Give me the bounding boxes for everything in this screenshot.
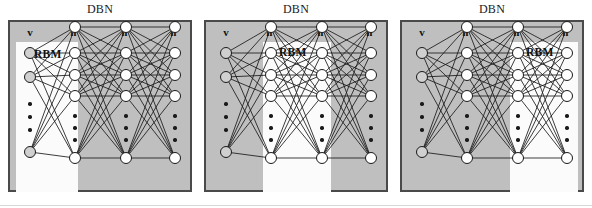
unit-node-h1 <box>69 21 81 33</box>
dbn-panel: DBNvh1h2h3RBM <box>400 20 584 192</box>
unit-node-h2 <box>316 21 328 33</box>
rbm-label: RBM <box>279 46 306 58</box>
unit-node-h1 <box>461 69 473 81</box>
dbn-figure: DBNvh1h2h3RBMDBNvh1h2h3RBMDBNvh1h2h3RBM <box>0 0 592 208</box>
ellipsis-dot <box>173 114 176 117</box>
layer-label-base: v <box>223 26 229 38</box>
ellipsis-dot <box>224 115 227 118</box>
ellipsis-dot <box>516 126 519 129</box>
unit-node-h3 <box>169 21 181 33</box>
unit-node-h3 <box>561 21 573 33</box>
unit-node-h1 <box>265 47 277 59</box>
ellipsis-dot <box>420 115 423 118</box>
panel-background: vh1h2h3RBM <box>8 20 192 192</box>
unit-node-v <box>416 146 428 158</box>
unit-node-v <box>24 146 36 158</box>
ellipsis-dot <box>565 114 568 117</box>
panel-title: DBN <box>8 2 192 16</box>
dbn-panel: DBNvh1h2h3RBM <box>8 20 192 192</box>
unit-node-h1 <box>265 90 277 102</box>
unit-node-h1 <box>69 47 81 59</box>
unit-node-h3 <box>561 69 573 81</box>
ellipsis-dot <box>320 138 323 141</box>
unit-node-v <box>220 47 232 59</box>
unit-node-v <box>24 71 36 83</box>
unit-node-h2 <box>316 152 328 164</box>
panel-background: vh1h2h3RBM <box>204 20 388 192</box>
ellipsis-dot <box>73 126 76 129</box>
layer-label-base: v <box>419 26 425 38</box>
layer-label-v: v <box>27 26 33 38</box>
edge <box>226 96 271 152</box>
ellipsis-dot <box>173 138 176 141</box>
ellipsis-dot <box>73 138 76 141</box>
unit-node-h3 <box>561 152 573 164</box>
ellipsis-dot <box>269 126 272 129</box>
unit-node-h2 <box>120 90 132 102</box>
layer-label-v: v <box>419 26 425 38</box>
unit-node-h1 <box>265 152 277 164</box>
unit-node-h2 <box>316 47 328 59</box>
unit-node-h2 <box>512 152 524 164</box>
unit-node-h3 <box>561 47 573 59</box>
unit-node-h1 <box>69 69 81 81</box>
ellipsis-dot <box>28 102 31 105</box>
ellipsis-dot <box>565 126 568 129</box>
unit-node-h2 <box>120 21 132 33</box>
unit-node-h3 <box>169 90 181 102</box>
ellipsis-dot <box>28 128 31 131</box>
panel-title: DBN <box>204 2 388 16</box>
ellipsis-dot <box>269 138 272 141</box>
layer-label-base: v <box>27 26 33 38</box>
ellipsis-dot <box>320 126 323 129</box>
unit-node-h3 <box>365 152 377 164</box>
unit-node-h1 <box>265 21 277 33</box>
unit-node-h2 <box>512 47 524 59</box>
ellipsis-dot <box>224 128 227 131</box>
unit-node-v <box>416 47 428 59</box>
ellipsis-dot <box>320 114 323 117</box>
edge <box>226 27 271 53</box>
ellipsis-dot <box>369 126 372 129</box>
ellipsis-dot <box>465 126 468 129</box>
edge <box>422 27 467 53</box>
unit-node-h2 <box>316 69 328 81</box>
unit-node-h3 <box>365 90 377 102</box>
unit-node-h3 <box>169 47 181 59</box>
unit-node-v <box>220 71 232 83</box>
ellipsis-dot <box>124 138 127 141</box>
ellipsis-dot <box>465 138 468 141</box>
unit-node-h2 <box>316 90 328 102</box>
rbm-label: RBM <box>34 48 61 60</box>
ellipsis-dot <box>465 114 468 117</box>
edge <box>422 96 467 152</box>
ellipsis-dot <box>516 138 519 141</box>
rbm-label: RBM <box>526 46 553 58</box>
ellipsis-dot <box>369 138 372 141</box>
unit-node-h2 <box>120 47 132 59</box>
unit-node-h1 <box>461 21 473 33</box>
ellipsis-dot <box>516 114 519 117</box>
unit-node-h2 <box>512 90 524 102</box>
ellipsis-dot <box>224 102 227 105</box>
edge <box>30 96 75 152</box>
ellipsis-dot <box>369 114 372 117</box>
panel-title: DBN <box>400 2 584 16</box>
unit-node-h2 <box>512 21 524 33</box>
ellipsis-dot <box>73 114 76 117</box>
ellipsis-dot <box>124 126 127 129</box>
unit-node-h3 <box>365 69 377 81</box>
unit-node-h1 <box>265 69 277 81</box>
unit-node-h3 <box>169 69 181 81</box>
connection-edges <box>402 22 586 194</box>
unit-node-h3 <box>561 90 573 102</box>
panel-background: vh1h2h3RBM <box>400 20 584 192</box>
dbn-panel: DBNvh1h2h3RBM <box>204 20 388 192</box>
unit-node-h1 <box>461 47 473 59</box>
unit-node-h3 <box>365 21 377 33</box>
ellipsis-dot <box>565 138 568 141</box>
ellipsis-dot <box>173 126 176 129</box>
unit-node-h2 <box>120 69 132 81</box>
unit-node-v <box>220 146 232 158</box>
layer-label-v: v <box>223 26 229 38</box>
